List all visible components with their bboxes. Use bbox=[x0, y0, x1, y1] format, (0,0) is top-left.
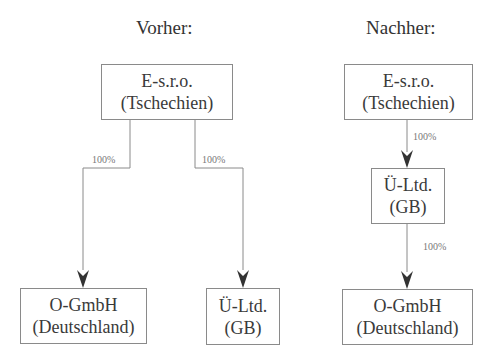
entity-name: Ü-Ltd. bbox=[219, 295, 268, 317]
edge-before-right bbox=[195, 119, 243, 270]
after-top-box: E-s.r.o. (Tschechien) bbox=[344, 64, 473, 120]
entity-name: O-GmbH bbox=[50, 294, 118, 316]
entity-country: (Tschechien) bbox=[121, 92, 214, 114]
entity-country: (Deutschland) bbox=[357, 317, 459, 339]
entity-name: E-s.r.o. bbox=[383, 70, 435, 92]
arrowhead-icon bbox=[401, 271, 413, 289]
arrowhead-icon bbox=[401, 150, 413, 168]
after-bottom-percent: 100% bbox=[423, 241, 446, 252]
entity-country: (Tschechien) bbox=[362, 92, 455, 114]
after-top-percent: 100% bbox=[413, 131, 436, 142]
entity-country: (Deutschland) bbox=[33, 316, 135, 338]
before-top-box: E-s.r.o. (Tschechien) bbox=[101, 64, 233, 120]
after-bottom-box: O-GmbH (Deutschland) bbox=[342, 289, 473, 345]
entity-country: (GB) bbox=[225, 317, 262, 339]
before-heading: Vorher: bbox=[136, 17, 193, 39]
edge-before-left bbox=[83, 119, 130, 270]
before-left-percent: 100% bbox=[92, 154, 115, 165]
entity-name: Ü-Ltd. bbox=[384, 174, 433, 196]
arrowhead-icon bbox=[237, 270, 249, 288]
before-right-percent: 100% bbox=[202, 154, 225, 165]
entity-country: (GB) bbox=[390, 196, 427, 218]
before-right-box: Ü-Ltd. (GB) bbox=[206, 288, 280, 345]
before-left-box: O-GmbH (Deutschland) bbox=[20, 288, 147, 344]
after-middle-box: Ü-Ltd. (GB) bbox=[371, 168, 445, 224]
entity-name: O-GmbH bbox=[374, 295, 442, 317]
entity-name: E-s.r.o. bbox=[141, 70, 193, 92]
after-heading: Nachher: bbox=[366, 17, 436, 39]
arrowhead-icon bbox=[77, 270, 89, 288]
